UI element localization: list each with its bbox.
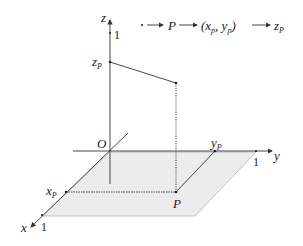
- unit-square-plane: [42, 152, 256, 216]
- tick-x-1: [41, 214, 43, 216]
- y-tick-label: 1: [253, 155, 259, 169]
- diagram-canvas: z 1 y 1 x 1 O zP xP yP P P (xp, yp) zP: [0, 0, 303, 246]
- svg-text:P: P: [167, 18, 176, 33]
- mapping-flow: P (xp, yp) zP: [141, 18, 284, 35]
- point-zp: [109, 61, 112, 64]
- y-axis-label: y: [272, 148, 280, 163]
- tick-y-1: [255, 150, 257, 152]
- xp-label: xP: [45, 183, 57, 200]
- z-tick-label: 1: [114, 28, 120, 42]
- x-axis-label: x: [20, 220, 27, 235]
- tick-z-1: [109, 32, 111, 34]
- origin-label: O: [97, 136, 107, 151]
- yp-label: yP: [209, 135, 222, 152]
- point-top: [175, 82, 178, 85]
- point-p: [175, 191, 178, 194]
- coordinate-diagram: z 1 y 1 x 1 O zP xP yP P P (xp, yp) zP: [0, 0, 303, 246]
- p-label: P: [172, 196, 181, 211]
- z-axis-label: z: [100, 10, 106, 25]
- point-xp: [65, 191, 68, 194]
- svg-text:zP: zP: [273, 18, 284, 35]
- svg-text:(xp, yp): (xp, yp): [201, 18, 236, 35]
- zp-label: zP: [91, 54, 102, 71]
- x-tick-label: 1: [41, 220, 47, 234]
- zp-connector: [110, 62, 176, 83]
